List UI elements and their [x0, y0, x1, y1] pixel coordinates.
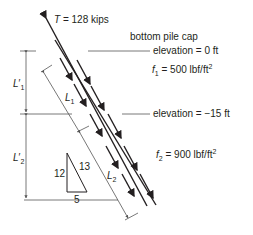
- cap-label: bottom pile cap: [130, 31, 198, 42]
- slope-vertical-label: 12: [54, 168, 65, 179]
- tension-label: T = 128 kips: [54, 14, 109, 25]
- f2-label: f2 = 900 lbf/ft2: [156, 149, 216, 160]
- slope-triangle: [67, 153, 87, 192]
- slope-horizontal-label: 5: [74, 194, 80, 205]
- f1-label: f1 = 500 lbf/ft2: [152, 64, 212, 75]
- slope-hypotenuse-label: 13: [79, 161, 90, 172]
- L2-prime-label: L′2: [13, 152, 24, 163]
- elevation-15-label: elevation = −15 ft: [153, 108, 230, 119]
- L2-label: L2: [107, 170, 116, 181]
- L1-label: L1: [65, 92, 74, 103]
- L1-prime-label: L′1: [13, 78, 24, 89]
- elevation-0-label: elevation = 0 ft: [153, 45, 218, 56]
